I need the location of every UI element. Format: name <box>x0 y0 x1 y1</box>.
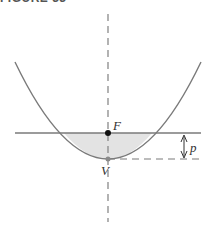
parabola-diagram: F V p <box>0 0 213 228</box>
distance-arrow-icon <box>181 135 187 158</box>
vertex-point <box>106 157 111 162</box>
vertex-label: V <box>101 163 111 178</box>
distance-label: p <box>189 140 197 155</box>
focus-label: F <box>112 118 122 133</box>
focus-point <box>105 130 111 136</box>
